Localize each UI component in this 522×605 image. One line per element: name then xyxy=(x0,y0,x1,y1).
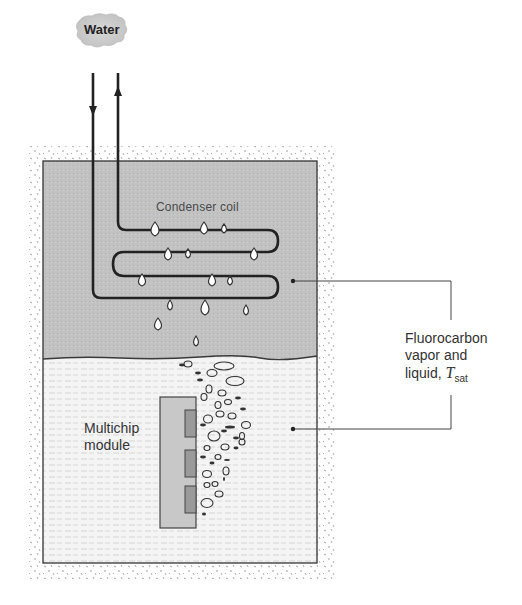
chip-2 xyxy=(185,450,196,477)
inlet-arrow-down-icon xyxy=(89,106,97,116)
immersion-cooling-diagram xyxy=(0,0,522,605)
vapor-point-marker xyxy=(291,279,295,283)
module-label-line1: Multichip xyxy=(84,420,139,437)
fluid-label-line3: liquid, Tsat xyxy=(405,364,488,387)
condenser-coil-label: Condenser coil xyxy=(156,200,239,214)
outlet-arrow-up-icon xyxy=(114,86,122,96)
water-label: Water xyxy=(84,22,120,37)
module-label-line2: module xyxy=(84,437,139,454)
vapor-region xyxy=(43,161,317,361)
liquid-point-marker xyxy=(291,427,295,431)
fluid-label-line2: vapor and xyxy=(405,347,488,364)
fluid-label-line1: Fluorocarbon xyxy=(405,330,488,347)
chip-3 xyxy=(185,486,196,513)
multichip-module-label: Multichip module xyxy=(84,420,139,454)
chip-1 xyxy=(185,410,196,437)
fluorocarbon-label: Fluorocarbon vapor and liquid, Tsat xyxy=(405,330,488,387)
